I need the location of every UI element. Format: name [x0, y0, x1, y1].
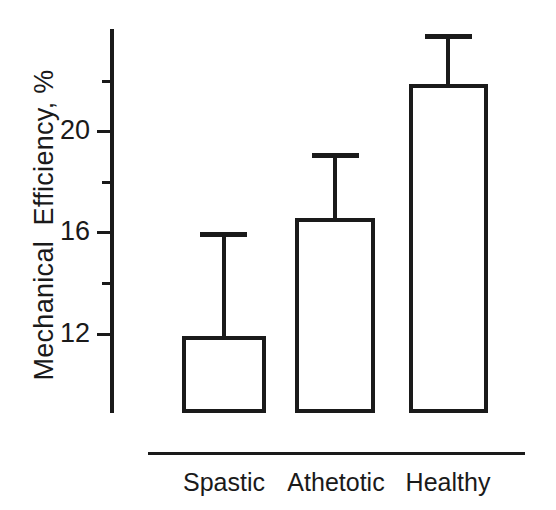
y-tick-major-16 — [97, 231, 111, 234]
y-tick-minor-18 — [102, 181, 111, 184]
error-bar-stem-healthy — [446, 36, 450, 87]
bar-spastic — [182, 336, 266, 413]
x-tick-label-spastic: Spastic — [164, 470, 284, 495]
bar-athetotic — [295, 218, 375, 413]
y-tick-label-12: 12 — [30, 320, 90, 347]
y-tick-minor-22 — [102, 80, 111, 83]
y-tick-major-20 — [97, 130, 111, 133]
y-tick-major-12 — [97, 333, 111, 336]
mechanical-efficiency-bar-chart: Mechanical Efficiency, % 20 16 12 Spasti — [0, 0, 556, 510]
y-tick-label-20: 20 — [30, 117, 90, 144]
bar-healthy — [409, 84, 488, 413]
y-tick-label-16: 16 — [30, 218, 90, 245]
plot-area: 20 16 12 Spastic Athetotic Healthy — [0, 0, 556, 510]
x-tick-label-athetotic: Athetotic — [272, 470, 400, 495]
y-axis-line — [110, 29, 114, 413]
error-bar-stem-athetotic — [333, 155, 337, 221]
x-axis-line — [148, 452, 525, 455]
x-tick-label-healthy: Healthy — [392, 470, 504, 495]
error-bar-stem-spastic — [222, 234, 226, 339]
y-tick-minor-14 — [102, 282, 111, 285]
